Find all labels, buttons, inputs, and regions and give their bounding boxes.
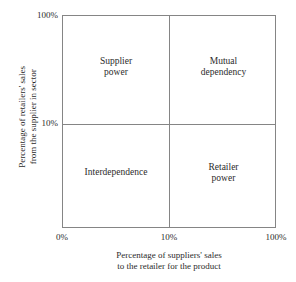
quadrant-mutual-dependency: Mutual dependency <box>170 16 277 124</box>
quadrant-interdependence-label: Interdependence <box>85 167 148 178</box>
quadrant-mutual-dependency-line1: Mutual <box>201 56 246 67</box>
quadrant-supplier-power-line1: Supplier <box>100 56 132 67</box>
quadrant-interdependence-line1: Interdependence <box>85 167 148 178</box>
x-axis-tick-0-percent: 0% <box>46 232 78 242</box>
power-matrix-figure: Supplier power Mutual dependency Interde… <box>0 0 296 282</box>
quadrant-mutual-dependency-line2: dependency <box>201 67 246 78</box>
quadrant-interdependence: Interdependence <box>63 125 169 229</box>
x-axis-title-line2: to the retailer for the product <box>62 261 276 272</box>
quadrant-retailer-power: Retailer power <box>170 125 277 229</box>
quadrant-retailer-power-line1: Retailer <box>208 162 238 173</box>
quadrant-supplier-power: Supplier power <box>63 16 169 124</box>
quadrant-supplier-power-line2: power <box>100 67 132 78</box>
quadrant-mutual-dependency-label: Mutual dependency <box>201 56 246 78</box>
quadrant-retailer-power-line2: power <box>208 173 238 184</box>
quadrant-retailer-power-label: Retailer power <box>208 162 238 184</box>
x-axis-title: Percentage of suppliers' sales to the re… <box>62 250 276 272</box>
quadrant-supplier-power-label: Supplier power <box>100 56 132 78</box>
matrix-plot-area: Supplier power Mutual dependency Interde… <box>62 15 276 228</box>
x-axis-title-line1: Percentage of suppliers' sales <box>62 250 276 261</box>
y-axis-title-line2: from the supplier in sector <box>28 27 39 207</box>
x-axis-tick-100-percent: 100% <box>258 232 294 242</box>
y-axis-tick-100-percent: 100% <box>24 10 58 20</box>
y-axis-title: Percentage of retailers' sales from the … <box>17 27 39 207</box>
y-axis-title-line1: Percentage of retailers' sales <box>17 27 28 207</box>
x-axis-tick-10-percent: 10% <box>153 232 185 242</box>
